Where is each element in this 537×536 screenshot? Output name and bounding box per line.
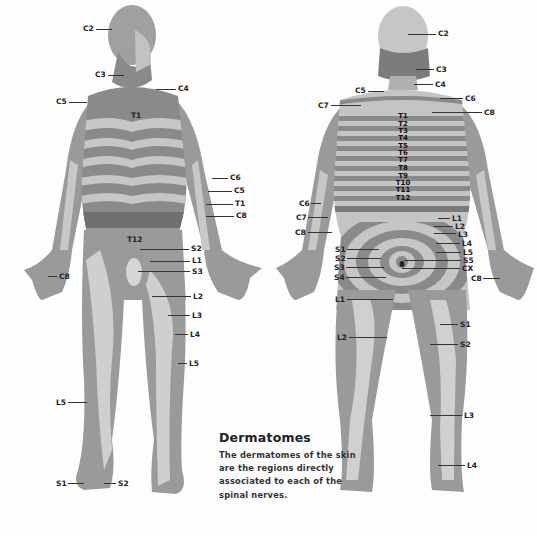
back-label-l3: L3 <box>458 230 468 239</box>
leader-line <box>331 105 361 106</box>
leader-line <box>347 249 379 250</box>
leader-line <box>206 216 234 217</box>
back-label-cx: CX <box>462 264 473 273</box>
front-label-l5-upper: L5 <box>189 359 199 368</box>
back-label-c8: C8 <box>484 108 495 117</box>
back-label-c7: C7 <box>318 101 329 110</box>
front-label-c5: C5 <box>56 97 67 106</box>
back-label-c2: C2 <box>438 29 449 38</box>
leader-line <box>434 226 453 227</box>
spine-label-t12: T12 <box>393 195 413 202</box>
back-label-s3: S3 <box>334 263 345 272</box>
caption-body: The dermatomes of the skin are the regio… <box>219 449 369 502</box>
leader-line <box>206 204 233 205</box>
leader-line <box>440 98 463 99</box>
back-label-c4: C4 <box>435 80 446 89</box>
back-label-c8-hand: C8 <box>471 274 482 283</box>
back-label-c5: C5 <box>355 86 366 95</box>
front-label-l1: L1 <box>192 256 202 265</box>
front-label-c5-arm: C5 <box>234 186 245 195</box>
leader-line <box>347 258 381 259</box>
back-label-c3: C3 <box>436 65 447 74</box>
leader-line <box>138 271 190 272</box>
leader-line <box>96 29 112 30</box>
leader-line <box>402 268 460 269</box>
back-label-s1: S1 <box>335 245 346 254</box>
leader-line <box>168 315 190 316</box>
leader-line <box>48 276 57 277</box>
leader-line <box>308 217 328 218</box>
leader-line <box>208 191 232 192</box>
front-label-t1-arm: T1 <box>235 199 245 208</box>
leader-line <box>152 296 191 297</box>
leader-line <box>416 69 434 70</box>
leader-line <box>483 278 500 279</box>
leader-line <box>408 34 436 35</box>
leader-line <box>440 324 458 325</box>
leader-line <box>349 337 387 338</box>
front-label-c8-hand: C8 <box>59 272 70 281</box>
leader-line <box>212 178 228 179</box>
leader-line <box>308 232 332 233</box>
leader-line <box>438 465 465 466</box>
leader-line <box>178 363 187 364</box>
back-label-l2-thigh: L2 <box>337 333 347 342</box>
back-label-s2-thigh: S2 <box>460 340 471 349</box>
leader-line <box>140 249 189 250</box>
front-label-l5-lower: L5 <box>56 398 66 407</box>
leader-line <box>346 277 386 278</box>
front-label-s2-foot: S2 <box>118 479 129 488</box>
back-label-c6-arm: C6 <box>299 199 310 208</box>
back-label-c8-arm: C8 <box>295 228 306 237</box>
front-label-l4: L4 <box>190 330 200 339</box>
front-label-c6-arm: C6 <box>230 173 241 182</box>
front-label-t1: T1 <box>131 111 141 120</box>
back-label-s2: S2 <box>335 254 346 263</box>
back-label-c7-arm: C7 <box>296 213 307 222</box>
back-label-s1-thigh: S1 <box>460 320 471 329</box>
back-label-c6: C6 <box>465 94 476 103</box>
leader-line <box>156 89 176 90</box>
leader-line <box>432 112 482 113</box>
leader-line <box>414 84 433 85</box>
leader-line <box>430 344 458 345</box>
front-label-c8-arm: C8 <box>236 211 247 220</box>
leader-line <box>68 483 84 484</box>
leader-line <box>69 102 87 103</box>
back-label-l4-calf: L4 <box>467 461 477 470</box>
back-label-l3-calf: L3 <box>464 411 474 420</box>
leader-line <box>347 299 393 300</box>
leader-line <box>434 233 456 234</box>
front-label-s3: S3 <box>192 267 203 276</box>
leader-line <box>104 483 116 484</box>
leader-line <box>346 267 384 268</box>
front-label-t12: T12 <box>127 235 143 244</box>
front-label-l2: L2 <box>193 292 203 301</box>
back-label-s4: S4 <box>334 273 345 282</box>
leader-line <box>311 203 321 204</box>
front-label-c4: C4 <box>178 84 189 93</box>
dermatome-diagram: C2 C3 C4 C5 T1 C6 C5 T1 C8 T12 S2 L1 S3 … <box>0 0 537 536</box>
leader-line <box>436 243 460 244</box>
front-label-c2: C2 <box>83 24 94 33</box>
leader-line <box>368 91 384 92</box>
leader-line <box>438 218 450 219</box>
leader-line <box>404 260 461 261</box>
front-label-c3: C3 <box>95 70 106 79</box>
leader-line <box>150 261 190 262</box>
leader-line <box>108 75 124 76</box>
front-label-s1: S1 <box>56 479 67 488</box>
leader-line <box>430 415 462 416</box>
front-label-s2: S2 <box>191 244 202 253</box>
back-label-l4: L4 <box>462 239 472 248</box>
caption-title: Dermatomes <box>219 430 369 445</box>
caption-block: Dermatomes The dermatomes of the skin ar… <box>219 430 369 502</box>
back-label-l1-thigh: L1 <box>335 295 345 304</box>
leader-line <box>68 402 87 403</box>
front-label-l3: L3 <box>192 311 202 320</box>
leader-line <box>436 252 461 253</box>
leader-line <box>175 334 188 335</box>
